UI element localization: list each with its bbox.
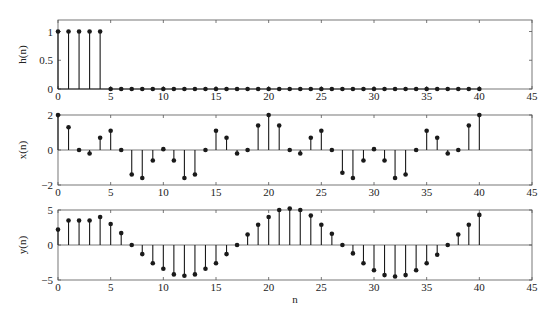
- y-tick-label: 5: [48, 204, 54, 216]
- x-tick-label: 25: [316, 186, 328, 198]
- stem-marker: [445, 87, 450, 92]
- stem-marker: [309, 87, 314, 92]
- stem-marker: [119, 148, 124, 153]
- x-tick-label: 30: [369, 281, 381, 293]
- stem-marker: [330, 232, 335, 237]
- stem-marker: [309, 135, 314, 140]
- stem-marker: [245, 148, 250, 153]
- stem-marker: [235, 243, 240, 248]
- stem-marker: [193, 172, 198, 177]
- hn-subplot: 05101520253035404500.51h(n): [16, 20, 538, 102]
- stem-marker: [245, 232, 250, 237]
- stem-marker: [456, 87, 461, 92]
- stem-marker: [119, 231, 124, 236]
- stem-marker: [319, 128, 324, 133]
- stem-marker: [403, 172, 408, 177]
- stem-marker: [287, 148, 292, 153]
- x-tick-label: 0: [55, 90, 61, 102]
- stem-marker: [298, 208, 303, 213]
- stem-marker: [203, 87, 208, 92]
- stem-marker: [140, 176, 145, 181]
- xn-subplot: 051015202530354045−202x(n): [16, 109, 538, 198]
- stem-marker: [77, 148, 82, 153]
- x-tick-label: 20: [263, 90, 275, 102]
- stem-marker: [467, 123, 472, 128]
- stem-marker: [340, 243, 345, 248]
- stem-marker: [256, 222, 261, 227]
- x-tick-label: 5: [108, 281, 114, 293]
- x-tick-label: 40: [474, 90, 486, 102]
- stem-marker: [414, 148, 419, 153]
- stem-marker: [56, 29, 61, 34]
- stem-marker: [129, 87, 134, 92]
- stem-marker: [277, 208, 282, 213]
- stem-marker: [108, 128, 113, 133]
- stem-marker: [351, 251, 356, 256]
- stem-marker: [151, 87, 156, 92]
- stem-marker: [351, 176, 356, 181]
- stem-marker: [77, 218, 82, 223]
- stem-marker: [98, 29, 103, 34]
- stem-marker: [456, 148, 461, 153]
- stem-marker: [361, 87, 366, 92]
- stem-marker: [224, 87, 229, 92]
- stem-marker: [214, 128, 219, 133]
- stem-marker: [467, 87, 472, 92]
- x-tick-label: 15: [211, 281, 223, 293]
- stem-marker: [182, 176, 187, 181]
- stem-marker: [435, 135, 440, 140]
- stem-marker: [414, 268, 419, 273]
- stem-marker: [77, 29, 82, 34]
- stem-marker: [266, 113, 271, 118]
- x-tick-label: 45: [527, 90, 539, 102]
- y-tick-label: 0: [48, 239, 54, 251]
- x-tick-label: 0: [55, 186, 61, 198]
- stem-marker: [224, 135, 229, 140]
- stem-marker: [477, 213, 482, 218]
- stem-marker: [372, 147, 377, 152]
- x-tick-label: 10: [158, 281, 170, 293]
- stem-marker: [445, 151, 450, 156]
- y-tick-label: −5: [41, 274, 53, 286]
- stem-marker: [477, 87, 482, 92]
- y-axis-label: y(n): [16, 236, 29, 255]
- stem-marker: [161, 147, 166, 152]
- stem-marker: [98, 215, 103, 220]
- stem-marker: [193, 272, 198, 277]
- stem-marker: [182, 274, 187, 279]
- stem-marker: [87, 29, 92, 34]
- x-tick-label: 30: [369, 90, 381, 102]
- y-tick-label: −2: [41, 179, 53, 191]
- stem-marker: [98, 135, 103, 140]
- stem-marker: [245, 87, 250, 92]
- stem-marker: [361, 261, 366, 266]
- x-tick-label: 45: [527, 281, 539, 293]
- stem-marker: [372, 87, 377, 92]
- stem-marker: [129, 172, 134, 177]
- stem-marker: [193, 87, 198, 92]
- x-tick-label: 5: [108, 90, 114, 102]
- stem-marker: [340, 170, 345, 175]
- x-tick-label: 10: [158, 186, 170, 198]
- x-tick-label: 25: [316, 90, 328, 102]
- stem-marker: [266, 215, 271, 220]
- stem-marker: [319, 222, 324, 227]
- stem-marker: [309, 213, 314, 218]
- stem-marker: [351, 87, 356, 92]
- stem-marker: [66, 29, 71, 34]
- stem-marker: [235, 151, 240, 156]
- stem-marker: [172, 158, 177, 163]
- stem-marker: [456, 232, 461, 237]
- x-tick-label: 0: [55, 281, 61, 293]
- stem-marker: [287, 87, 292, 92]
- stem-marker: [277, 123, 282, 128]
- stem-marker: [424, 128, 429, 133]
- x-tick-label: 30: [369, 186, 381, 198]
- stem-marker: [172, 87, 177, 92]
- x-tick-label: 25: [316, 281, 328, 293]
- stem-marker: [393, 176, 398, 181]
- y-tick-label: 0: [48, 144, 54, 156]
- stem-marker: [414, 87, 419, 92]
- x-tick-label: 20: [263, 281, 275, 293]
- stem-marker: [330, 87, 335, 92]
